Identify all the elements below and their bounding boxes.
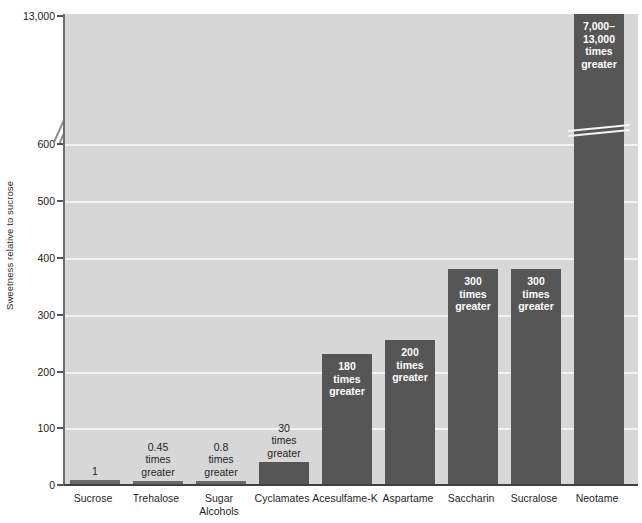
y-tick-label: 200: [3, 366, 55, 378]
bar-value-label-sugar-alcohols: 0.8 times greater: [196, 441, 246, 479]
gridline: [65, 201, 638, 203]
bar-aspartame[interactable]: 200 times greater: [385, 340, 435, 484]
y-tick-label: 0: [3, 479, 55, 491]
bar-cyclamates[interactable]: [259, 462, 309, 484]
y-tick-label: 400: [3, 252, 55, 264]
bar-value-label-saccharin: 300 times greater: [448, 275, 498, 313]
bar-sucralose[interactable]: 300 times greater: [511, 269, 561, 484]
bar-value-label-sucralose: 300 times greater: [511, 275, 561, 313]
bar-value-label-cyclamates: 30 times greater: [259, 422, 309, 460]
y-tick-label: 600: [3, 138, 55, 150]
gridline: [65, 144, 638, 146]
bar-sugar-alcohols[interactable]: [196, 481, 246, 484]
bar-value-label-trehalose: 0.45 times greater: [133, 441, 183, 479]
bar-saccharin[interactable]: 300 times greater: [448, 269, 498, 484]
bar-break-icon: [568, 125, 630, 137]
bar-neotame[interactable]: 7,000– 13,000 times greater: [574, 14, 624, 484]
bar-value-label-neotame: 7,000– 13,000 times greater: [574, 20, 624, 70]
chart-figure: Sweetness relative to sucrose 13,0006005…: [0, 0, 642, 523]
plot-area: 10.45 times greater0.8 times greater30 t…: [63, 14, 638, 486]
bar-trehalose[interactable]: [133, 481, 183, 484]
bar-value-label-aspartame: 200 times greater: [385, 346, 435, 384]
y-tick-label: 13,000: [3, 10, 55, 22]
x-category-neotame: Neotame: [560, 492, 634, 505]
y-axis-title: Sweetness relative to sucrose: [0, 0, 20, 490]
plot-inner: 10.45 times greater0.8 times greater30 t…: [65, 14, 638, 484]
gridline: [65, 258, 638, 260]
y-tick-label: 500: [3, 195, 55, 207]
bar-value-label-acesulfame-k: 180 times greater: [322, 360, 372, 398]
y-tick-label: 100: [3, 422, 55, 434]
bar-sucrose[interactable]: [70, 480, 120, 484]
y-tick-label: 300: [3, 309, 55, 321]
bar-acesulfame-k[interactable]: 180 times greater: [322, 354, 372, 484]
bar-value-label-sucrose: 1: [70, 465, 120, 478]
